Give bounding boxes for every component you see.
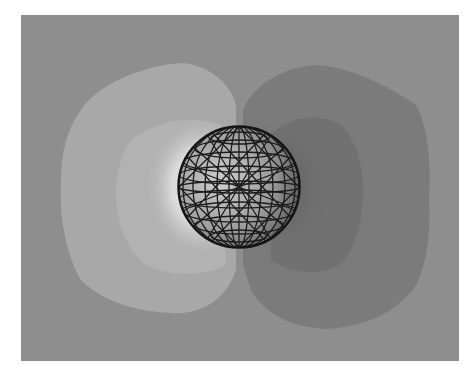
field-plot	[21, 15, 459, 361]
field-visualization	[21, 15, 459, 361]
mesh-sphere	[178, 125, 300, 249]
